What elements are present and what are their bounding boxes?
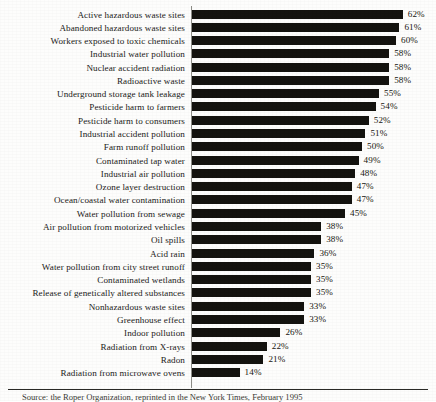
bar-row: Underground storage tank leakage55% [0,88,436,101]
bar [192,302,304,311]
bar-fill [192,315,304,324]
bar-fill [192,209,345,218]
bar-fill [192,89,379,98]
bar-row: Active hazardous waste sites62% [0,9,436,22]
bar-row: Indoor pollution26% [0,327,436,340]
bar-row: Contaminated wetlands35% [0,274,436,287]
bar [192,342,267,351]
bar-fill [192,102,376,111]
bar [192,23,399,32]
bar-fill [192,23,399,32]
bar [192,76,389,85]
category-label: Workers exposed to toxic chemicals [0,36,185,47]
bar-value-label: 33% [309,315,326,324]
category-label: Indoor pollution [0,328,185,339]
bar-value-label: 14% [245,368,262,377]
category-label: Industrial water pollution [0,49,185,60]
bar-fill [192,355,263,364]
bar-row: Radiation from X-rays22% [0,341,436,354]
bar-row: Farm runoff pollution50% [0,141,436,154]
category-label: Nonhazardous waste sites [0,302,185,313]
bar-row: Pesticide harm to farmers54% [0,101,436,114]
bar-fill [192,195,352,204]
bar [192,249,314,258]
bar [192,222,321,231]
bar-row: Water pollution from city street runoff3… [0,261,436,274]
bar-value-label: 47% [357,182,374,191]
bar [192,288,311,297]
category-label: Underground storage tank leakage [0,89,185,100]
bar [192,182,352,191]
bar-value-label: 60% [401,36,418,45]
category-label: Greenhouse effect [0,315,185,326]
bar-row: Ocean/coastal water contamination47% [0,194,436,207]
bar-fill [192,368,240,377]
bar [192,328,280,337]
bar [192,195,352,204]
bar [192,89,379,98]
bar [192,355,263,364]
category-label: Ocean/coastal water contamination [0,195,185,206]
bar [192,315,304,324]
bar-row: Air pollution from motorized vehicles38% [0,221,436,234]
category-label: Nuclear accident radiation [0,63,185,74]
bar [192,142,362,151]
bar-row: Industrial air pollution48% [0,168,436,181]
bar-row: Abandoned hazardous waste sites61% [0,22,436,35]
bar-row: Acid rain36% [0,248,436,261]
bar-value-label: 48% [360,169,377,178]
bar-fill [192,235,321,244]
bar-value-label: 49% [364,156,381,165]
bar-value-label: 33% [309,302,326,311]
bar-value-label: 58% [394,49,411,58]
bar-value-label: 51% [370,129,387,138]
category-label: Ozone layer destruction [0,182,185,193]
bar-fill [192,182,352,191]
category-label: Abandoned hazardous waste sites [0,23,185,34]
bar-value-label: 58% [394,76,411,85]
bar-fill [192,10,403,19]
bar-row: Workers exposed to toxic chemicals60% [0,35,436,48]
bar [192,63,389,72]
bar [192,36,396,45]
category-label: Pesticide harm to farmers [0,102,185,113]
category-label: Industrial air pollution [0,169,185,180]
bar [192,10,403,19]
bar [192,275,311,284]
bar-fill [192,249,314,258]
category-label: Oil spills [0,235,185,246]
bar-fill [192,262,311,271]
bar [192,209,345,218]
category-label: Release of genetically altered substance… [0,288,185,299]
category-label: Water pollution from city street runoff [0,262,185,273]
bar-value-label: 36% [319,249,336,258]
bar-value-label: 54% [381,102,398,111]
bar-fill [192,129,365,138]
bar-fill [192,169,355,178]
bar-row: Ozone layer destruction47% [0,181,436,194]
category-label: Radioactive waste [0,76,185,87]
bar-row: Nuclear accident radiation58% [0,62,436,75]
category-label: Industrial accident pollution [0,129,185,140]
bar-value-label: 21% [268,355,285,364]
bar-row: Oil spills38% [0,234,436,247]
bar-row: Water pollution from sewage45% [0,208,436,221]
bar-fill [192,288,311,297]
category-label: Active hazardous waste sites [0,10,185,21]
bar-fill [192,76,389,85]
bar-fill [192,342,267,351]
bar-fill [192,36,396,45]
bar-row: Industrial accident pollution51% [0,128,436,141]
category-label: Acid rain [0,249,185,260]
category-axis-line [191,6,192,388]
bar [192,116,369,125]
bar [192,262,311,271]
bar-fill [192,116,369,125]
bar-fill [192,302,304,311]
bar-row: Greenhouse effect33% [0,314,436,327]
bar-row: Radioactive waste58% [0,75,436,88]
bar-fill [192,49,389,58]
category-label: Radiation from microwave ovens [0,368,185,379]
bar-value-label: 45% [350,209,367,218]
